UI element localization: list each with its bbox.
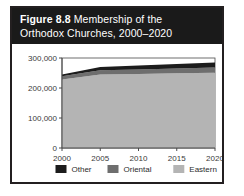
legend-label-oriental: Oriental <box>124 165 152 174</box>
figure-title-line-2: Orthodox Churches, 2000–2020 <box>20 26 214 40</box>
legend-swatch-other <box>56 165 67 173</box>
figure-title-band: Figure 8.8 Membership of the Orthodox Ch… <box>12 8 222 44</box>
y-tick-label: 0 <box>53 144 58 153</box>
x-tick-label: 2015 <box>168 154 186 163</box>
x-tick-label: 2005 <box>91 154 109 163</box>
figure-number-label: Figure 8.8 <box>20 13 71 25</box>
x-tick-label: 2000 <box>53 154 71 163</box>
series-group <box>62 63 215 149</box>
legend-label-other: Other <box>72 165 92 174</box>
legend-swatch-oriental <box>108 165 119 173</box>
area-series-eastern <box>62 73 215 148</box>
figure-title-line-1: Figure 8.8 Membership of the <box>20 12 214 26</box>
x-axis-tick-labels: 20002005201020152020 <box>53 154 222 163</box>
y-axis-tick-labels: 0100,000200,000300,000 <box>28 54 57 153</box>
stacked-area-chart: 0100,000200,000300,000 20002005201020152… <box>12 44 222 182</box>
y-tick-label: 200,000 <box>28 84 57 93</box>
legend-label-eastern: Eastern <box>189 165 217 174</box>
x-tick-label: 2020 <box>206 154 222 163</box>
figure-card: Figure 8.8 Membership of the Orthodox Ch… <box>10 6 224 184</box>
x-tick-label: 2010 <box>130 154 148 163</box>
y-tick-label: 100,000 <box>28 114 57 123</box>
y-tick-label: 300,000 <box>28 54 57 63</box>
chart-plot-area: 0100,000200,000300,000 20002005201020152… <box>12 44 222 182</box>
figure-title-rest: Membership of the <box>71 13 163 25</box>
chart-legend: OtherOrientalEastern <box>56 165 217 174</box>
legend-swatch-eastern <box>173 165 184 173</box>
